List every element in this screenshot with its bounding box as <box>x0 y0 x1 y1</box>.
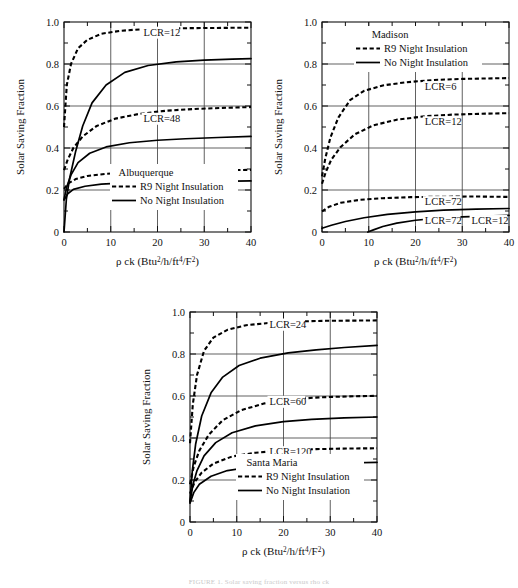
x-axis-title: ρ ck (Btu2/h/ft4/F2) <box>116 255 199 268</box>
y-tick-label: 0.4 <box>172 433 186 444</box>
x-tick-label: 20 <box>278 527 289 538</box>
x-tick-label: 40 <box>504 237 515 248</box>
x-tick-label: 40 <box>372 527 383 538</box>
y-axis-title: Solar Saving Fraction <box>14 79 26 175</box>
chart-santa-maria: 01020304000.20.40.60.81.0Solar Saving Fr… <box>134 296 384 581</box>
legend-location-title: Madison <box>372 29 410 40</box>
y-tick-label: 1.0 <box>304 17 317 28</box>
annotation-lcr-label: LCR=12 <box>472 215 509 226</box>
legend-label: No Night Insulation <box>384 57 469 68</box>
y-tick-label: 0.2 <box>304 185 317 196</box>
annotation-lcr-label: LCR=24 <box>269 319 307 330</box>
x-tick-label: 10 <box>232 527 243 538</box>
x-tick-label: 0 <box>319 237 324 248</box>
y-tick-label: 0 <box>180 517 185 528</box>
annotation-lcr-label: LCR=72 <box>425 215 462 226</box>
x-tick-label: 0 <box>61 237 66 248</box>
annotation-lcr-label: LCR=12 <box>143 27 180 38</box>
legend-label: R9 Night Insulation <box>384 43 468 54</box>
x-tick-label: 30 <box>457 237 468 248</box>
x-axis-title: ρ ck (Btu2/h/ft4/F2) <box>242 545 325 558</box>
chart-albuquerque: 01020304000.20.40.60.81.0Solar Saving Fr… <box>8 6 258 291</box>
y-tick-label: 0.2 <box>46 185 59 196</box>
legend-location-title: Santa Maria <box>246 457 297 468</box>
y-axis-title: Solar Saving Fraction <box>272 79 284 175</box>
x-tick-label: 10 <box>106 237 117 248</box>
y-tick-label: 0.2 <box>172 475 185 486</box>
x-axis-title: ρ ck (Btu2/h/ft4/F2) <box>374 255 457 268</box>
legend-label: No Night Insulation <box>140 195 225 206</box>
y-tick-label: 0.6 <box>46 101 59 112</box>
annotation-lcr-label: LCR=12 <box>425 116 462 127</box>
y-tick-label: 1.0 <box>46 17 59 28</box>
y-tick-label: 0.6 <box>304 101 317 112</box>
y-tick-label: 0.4 <box>46 143 60 154</box>
x-tick-label: 20 <box>152 237 163 248</box>
x-tick-label: 10 <box>364 237 375 248</box>
chart-madison: 01020304000.20.40.60.81.0Solar Saving Fr… <box>266 6 516 291</box>
y-tick-label: 0 <box>312 227 317 238</box>
y-tick-label: 0.4 <box>304 143 318 154</box>
annotation-lcr-label: LCR=48 <box>143 113 180 124</box>
legend-location-title: Albuquerque <box>119 167 174 178</box>
annotation-lcr-label: LCR=60 <box>269 396 306 407</box>
x-tick-label: 0 <box>187 527 192 538</box>
legend-label: R9 Night Insulation <box>140 181 224 192</box>
y-tick-label: 0.8 <box>172 349 185 360</box>
y-axis-title: Solar Saving Fraction <box>140 369 152 465</box>
x-tick-label: 30 <box>325 527 336 538</box>
y-tick-label: 0.8 <box>46 59 59 70</box>
x-tick-label: 40 <box>246 237 257 248</box>
panel-madison: 01020304000.20.40.60.81.0Solar Saving Fr… <box>266 6 516 291</box>
y-tick-label: 1.0 <box>172 307 185 318</box>
x-tick-label: 30 <box>199 237 210 248</box>
x-tick-label: 20 <box>410 237 421 248</box>
annotation-lcr-label: LCR=72 <box>425 196 462 207</box>
figure-three-panel-solar-saving-fraction: 01020304000.20.40.60.81.0Solar Saving Fr… <box>0 0 518 588</box>
y-tick-label: 0 <box>54 227 59 238</box>
legend-label: No Night Insulation <box>266 485 351 496</box>
annotation-lcr-label: LCR=6 <box>425 81 457 92</box>
figure-caption: FIGURE 1. Solar saving fraction versus r… <box>0 578 518 588</box>
legend-label: R9 Night Insulation <box>266 471 350 482</box>
panel-santa-maria: 01020304000.20.40.60.81.0Solar Saving Fr… <box>134 296 384 581</box>
panel-albuquerque: 01020304000.20.40.60.81.0Solar Saving Fr… <box>8 6 258 291</box>
y-tick-label: 0.8 <box>304 59 317 70</box>
y-tick-label: 0.6 <box>172 391 185 402</box>
